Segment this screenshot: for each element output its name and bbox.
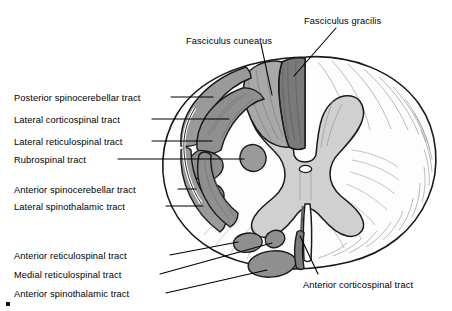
label-lateral-spinothalamic-tract: Lateral spinothalamic tract [14,202,125,213]
label-anterior-spinothalamic-tract: Anterior spinothalamic tract [14,289,129,300]
central-canal [299,165,311,172]
label-medial-reticulospinal-tract: Medial reticulospinal tract [14,270,121,281]
label-fasciculus-gracilis: Fasciculus gracilis [304,16,381,27]
label-anterior-reticulospinal-tract: Anterior reticulospinal tract [14,251,127,262]
label-lateral-corticospinal-tract: Lateral corticospinal tract [14,115,120,126]
registration-mark [6,302,10,306]
label-anterior-corticospinal-tract: Anterior corticospinal tract [303,280,413,291]
label-rubrospinal-tract: Rubrospinal tract [14,155,86,166]
anterior-corticospinal-tract-region [295,231,304,270]
label-lateral-reticulospinal-tract: Lateral reticulospinal tract [14,137,123,148]
label-anterior-spinocerebellar-tract: Anterior spinocerebellar tract [14,185,136,196]
label-posterior-spinocerebellar-tract: Posterior spinocerebellar tract [14,93,140,104]
label-fasciculus-cuneatus: Fasciculus cuneatus [186,36,272,47]
